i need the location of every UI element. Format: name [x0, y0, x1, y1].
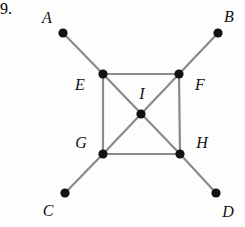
vertex-label-d: D [222, 204, 234, 220]
vertex-node-h [175, 149, 184, 158]
vertex-node-c [60, 188, 69, 197]
vertex-label-e: E [75, 77, 85, 93]
vertex-label-c: C [43, 203, 54, 219]
edge-f-h [179, 74, 180, 154]
vertex-node-f [174, 69, 183, 78]
edge-a-e [63, 33, 103, 74]
vertex-label-b: B [224, 9, 234, 25]
vertex-node-g [98, 149, 107, 158]
vertex-label-g: G [75, 135, 87, 151]
vertex-label-h: H [196, 135, 208, 151]
edge-c-g [65, 154, 103, 193]
edge-d-h [180, 154, 216, 193]
vertex-node-d [211, 188, 220, 197]
vertex-node-b [213, 28, 222, 37]
vertex-label-f: F [195, 77, 205, 93]
vertex-label-a: A [42, 10, 52, 26]
figure-container: 9. ABCDEFGHI [0, 0, 245, 227]
vertex-label-i: I [139, 86, 144, 102]
edge-b-f [179, 33, 218, 74]
graph-diagram [0, 0, 245, 227]
vertex-node-a [58, 28, 67, 37]
vertex-node-e [98, 69, 107, 78]
vertex-node-i [136, 109, 145, 118]
